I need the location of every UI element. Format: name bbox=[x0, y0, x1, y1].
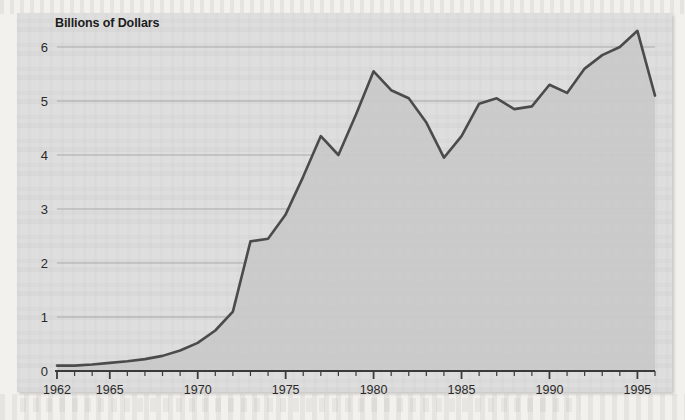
page-grain-bottom bbox=[0, 394, 685, 420]
y-tick-label-1: 1 bbox=[41, 310, 48, 325]
y-tick-label-3: 3 bbox=[41, 202, 48, 217]
y-tick-label-4: 4 bbox=[41, 148, 48, 163]
area-chart: 0123456 19621965197019751980198519901995 bbox=[0, 0, 685, 420]
area-fill bbox=[57, 31, 655, 371]
y-tick-label-5: 5 bbox=[41, 94, 48, 109]
x-axis-group bbox=[55, 371, 655, 379]
y-tick-label-2: 2 bbox=[41, 256, 48, 271]
y-tick-label-0: 0 bbox=[41, 364, 48, 379]
y-tick-labels-group: 0123456 bbox=[41, 40, 48, 379]
y-tick-label-6: 6 bbox=[41, 40, 48, 55]
scanned-page: Billions of Dollars 0123456 196219651970… bbox=[0, 0, 685, 420]
area-fill-group bbox=[57, 31, 655, 371]
